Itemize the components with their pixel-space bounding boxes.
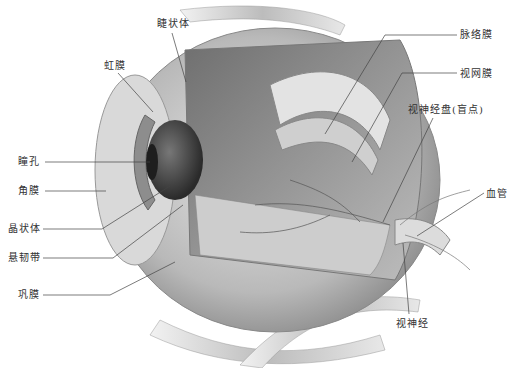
label-cornea: 角膜: [18, 185, 40, 197]
label-zonule: 悬韧带: [8, 252, 41, 264]
label-blood-vessel: 血管: [486, 188, 508, 200]
label-retina: 视网膜: [460, 68, 493, 80]
label-choroid: 脉络膜: [460, 29, 493, 41]
label-ciliary-body: 睫状体: [157, 18, 190, 30]
eye-anatomy-diagram: 睫状体 虹膜 瞳孔 角膜 晶状体 悬韧带 巩膜 脉络膜 视网膜 视神经盘(盲点)…: [0, 0, 514, 368]
label-optic-nerve: 视神经: [396, 318, 429, 330]
label-lens: 晶状体: [8, 223, 41, 235]
label-iris: 虹膜: [104, 60, 126, 72]
eye-illustration: [0, 0, 514, 368]
label-sclera: 巩膜: [18, 289, 40, 301]
label-optic-disc: 视神经盘(盲点): [408, 104, 484, 116]
label-pupil: 瞳孔: [18, 156, 40, 168]
